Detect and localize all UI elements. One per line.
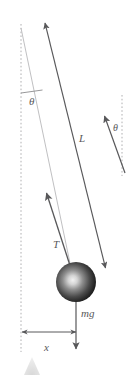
angle-theta-tension-label: θ [113,122,118,133]
length-arrow [45,23,106,268]
pendulum-figure: θ θ L T mg x [0,0,133,377]
displacement-label: x [43,341,49,353]
floor-marker-triangle [24,357,40,375]
weight-label: mg [81,307,95,319]
pendulum-bob [56,262,96,302]
angle-marker-line [21,90,43,93]
pendulum-string [21,28,76,292]
length-label: L [78,132,85,144]
tension-label: T [53,238,60,250]
pendulum-diagram: θ θ L T mg x [0,0,133,377]
angle-theta-vertical-label: θ [29,95,35,107]
